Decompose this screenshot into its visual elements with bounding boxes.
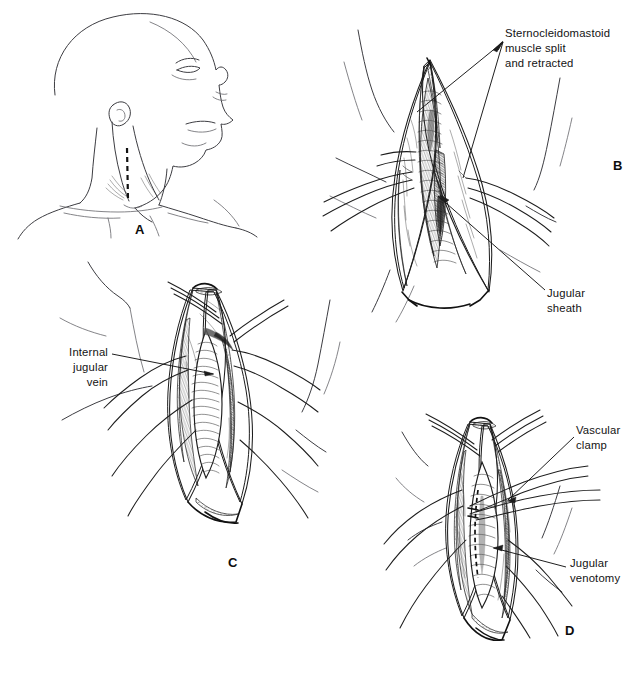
panel-letter-a: A <box>135 222 145 237</box>
instrument-shaft-c4 <box>230 300 284 336</box>
illustration-canvas <box>0 0 644 685</box>
instrument-shaft-c5 <box>234 306 288 342</box>
panel-d-venotomy-drawing <box>384 410 600 640</box>
panel-letter-b: B <box>613 158 623 173</box>
leader-vascular-clamp <box>508 437 574 500</box>
panel-a-head-neck-drawing <box>18 14 257 239</box>
label-jugular-sheath: Jugular sheath <box>547 286 637 316</box>
label-internal-jugular-vein: Internal jugular vein <box>34 345 108 391</box>
label-jugular-venotomy: Jugular venotomy <box>570 556 644 586</box>
label-sternocleidomastoid: Sternocleidomastoid muscle split and ret… <box>505 26 635 72</box>
panel-letter-d: D <box>565 623 575 638</box>
instrument-shaft-d3 <box>498 422 546 452</box>
leader-sternocleidomastoid-1 <box>463 42 503 178</box>
instrument-shaft-d1 <box>492 410 540 440</box>
panel-letter-c: C <box>228 555 238 570</box>
label-vascular-clamp: Vascular clamp <box>576 423 644 453</box>
panel-b-muscle-split-drawing <box>323 30 572 322</box>
instrument-shaft-d2 <box>495 416 543 446</box>
incision-dashed-line <box>127 148 128 200</box>
figure-root: Sternocleidomastoid muscle split and ret… <box>0 0 644 685</box>
panel-c-internal-jugular-drawing <box>60 262 340 523</box>
